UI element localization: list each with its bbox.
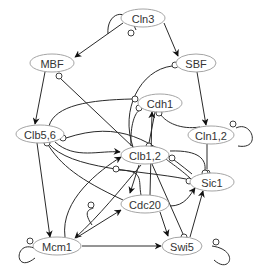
inhibition-marker bbox=[230, 121, 236, 127]
edge-cdc20-inhibit-clb12 bbox=[117, 170, 141, 195]
edge-swi5-activate-sic1 bbox=[190, 191, 203, 237]
edge-mcm1-inhibit-mcm1 bbox=[19, 247, 35, 263]
node-mcm1: Mcm1 bbox=[33, 237, 81, 255]
edge-clb12-inhibit-mbf bbox=[61, 79, 134, 148]
inhibition-marker bbox=[27, 238, 33, 244]
edge-cln12-inhibit-cdh1 bbox=[161, 115, 200, 128]
edge-sic1-inhibit-clb12 bbox=[165, 157, 190, 178]
edge-cdc20-activate-sic1 bbox=[170, 188, 195, 206]
nodes-layer: Cln3MBFSBFCdh1Clb5,6Cln1,2Clb1,2Sic1Cdc2… bbox=[16, 9, 234, 255]
node-label: Cln3 bbox=[132, 13, 155, 25]
edge-sbf-activate-cln12 bbox=[197, 72, 206, 125]
node-label: Sic1 bbox=[201, 177, 222, 189]
node-cdc20: Cdc20 bbox=[121, 195, 169, 213]
inhibition-marker bbox=[213, 239, 219, 245]
network-diagram: Cln3MBFSBFCdh1Clb5,6Cln1,2Clb1,2Sic1Cdc2… bbox=[0, 0, 265, 277]
edge-mcm1-activate-clb12 bbox=[65, 157, 121, 237]
edge-mbf-activate-clb56 bbox=[35, 72, 45, 124]
edge-clb56-inhibit-cdh1 bbox=[49, 99, 132, 126]
node-label: Cdc20 bbox=[129, 199, 161, 211]
network-canvas: Cln3MBFSBFCdh1Clb5,6Cln1,2Clb1,2Sic1Cdc2… bbox=[0, 0, 265, 277]
edge-swi5-inhibit-swi5 bbox=[212, 246, 230, 265]
edge-clb56-activate-clb12 bbox=[55, 142, 120, 153]
node-cdh1: Cdh1 bbox=[138, 94, 182, 112]
node-sbf: SBF bbox=[176, 54, 216, 72]
edge-cdc20-activate-swi5 bbox=[160, 212, 168, 236]
node-label: Mcm1 bbox=[42, 241, 72, 253]
inhibition-marker bbox=[88, 202, 94, 208]
node-sic1: Sic1 bbox=[190, 173, 234, 191]
inhibition-marker bbox=[128, 30, 134, 36]
node-clb56: Clb5,6 bbox=[16, 125, 64, 143]
edge-cln3-activate-sbf bbox=[164, 23, 178, 56]
edge-cln3-activate-mbf bbox=[75, 23, 123, 57]
node-label: Cdh1 bbox=[147, 98, 173, 110]
inhibition-marker bbox=[169, 155, 175, 161]
node-cln12: Cln1,2 bbox=[188, 126, 234, 144]
edge-cln12-inhibit-cln12 bbox=[236, 127, 252, 147]
inhibition-marker bbox=[132, 96, 138, 102]
node-label: Swi5 bbox=[170, 241, 194, 253]
edge-clb56-activate-mcm1 bbox=[37, 143, 50, 237]
node-clb12: Clb1,2 bbox=[121, 146, 169, 164]
node-mbf: MBF bbox=[30, 54, 74, 72]
node-cln3: Cln3 bbox=[121, 9, 165, 27]
node-label: SBF bbox=[185, 58, 207, 70]
node-label: Cln1,2 bbox=[195, 130, 227, 142]
edge-clb56-inhibit-sic1 bbox=[48, 143, 186, 179]
node-label: Clb5,6 bbox=[24, 129, 56, 141]
edge-cdc20-inhibit-cdc20 bbox=[87, 207, 93, 225]
node-label: Clb1,2 bbox=[129, 150, 161, 162]
node-swi5: Swi5 bbox=[162, 237, 202, 255]
node-label: MBF bbox=[40, 58, 64, 70]
inhibition-marker bbox=[56, 73, 62, 79]
edge-clb12-inhibit-cdh1 bbox=[131, 110, 140, 146]
inhibition-marker bbox=[113, 166, 119, 172]
